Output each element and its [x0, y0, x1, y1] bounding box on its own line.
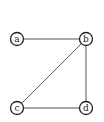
node-label: a [14, 34, 20, 44]
node-d: d [80, 102, 93, 115]
node-b: b [80, 33, 93, 46]
graph-diagram: abcd [0, 0, 104, 122]
node-label: b [83, 34, 89, 44]
node-a: a [11, 33, 24, 46]
node-label: c [14, 103, 19, 113]
node-label: d [83, 103, 89, 113]
edges-layer [17, 39, 86, 108]
node-c: c [11, 102, 24, 115]
edge-b-c [17, 39, 86, 108]
